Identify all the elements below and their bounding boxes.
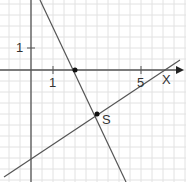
point-s-label: S (102, 113, 111, 126)
grid (0, 0, 186, 182)
coordinate-diagram: 1 5 1 x S (0, 0, 186, 182)
x-axis-label: x (162, 73, 171, 86)
point-s (95, 112, 100, 117)
x-axis-arrow-icon (176, 66, 184, 74)
plot-canvas (0, 0, 186, 182)
point-x-intercept (73, 68, 78, 73)
x-tick-label-5: 5 (137, 76, 144, 89)
y-tick-label-1: 1 (16, 41, 23, 54)
x-tick-label-1: 1 (49, 76, 56, 89)
